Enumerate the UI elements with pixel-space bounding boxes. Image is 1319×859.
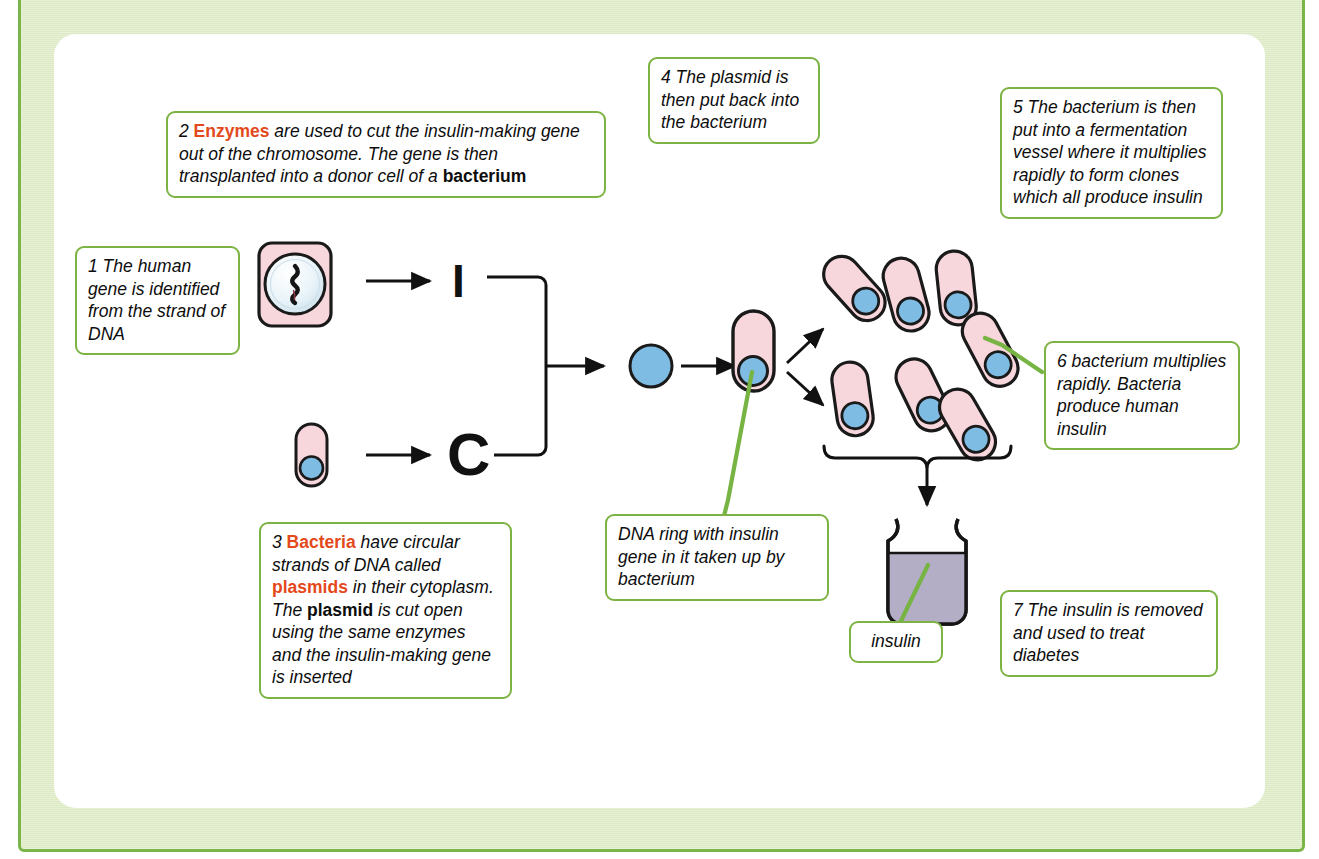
diagram-canvas: I C 1 The human gene is identified from … — [0, 0, 1319, 859]
merge-line-bottom — [494, 356, 546, 455]
recombinant-plasmid-graphic — [630, 345, 672, 387]
step-4-text: The plasmid is then put back into the ba… — [661, 67, 799, 132]
callout-step-1[interactable]: 1 The human gene is identified from the … — [75, 246, 240, 355]
step-2-number: 2 — [179, 121, 189, 141]
step-7-text: The insulin is removed and used to treat… — [1013, 600, 1203, 665]
step-1-number: 1 — [88, 256, 98, 276]
step-6-number: 6 — [1057, 351, 1067, 371]
callout-step-2[interactable]: 2 Enzymes are used to cut the insulin-ma… — [166, 111, 606, 198]
bacteria-clone-cluster — [816, 249, 1024, 467]
step-7-number: 7 — [1013, 600, 1023, 620]
human-cell-graphic — [259, 243, 331, 326]
step-2-keyword-bacterium: bacterium — [443, 166, 527, 186]
step-3-keyword-plasmid: plasmid — [307, 600, 373, 620]
step-6-text: bacterium multiplies rapidly. Bacteria p… — [1057, 351, 1226, 439]
transformed-bacterium-graphic — [733, 311, 774, 391]
step-2-keyword-enzymes: Enzymes — [194, 121, 270, 141]
leader-dna-ring — [724, 372, 752, 516]
callout-dna-ring[interactable]: DNA ring with insulin gene in it taken u… — [605, 514, 829, 601]
bacterium-small-graphic — [296, 424, 327, 486]
arrow-multiply-down — [787, 372, 823, 405]
callout-step-4[interactable]: 4 The plasmid is then put back into the … — [648, 57, 820, 144]
callout-step-3[interactable]: 3 Bacteria have circular strands of DNA … — [259, 522, 512, 699]
insulin-label-text: insulin — [871, 631, 921, 651]
callout-insulin[interactable]: insulin — [849, 621, 943, 663]
arrow-multiply-up — [787, 329, 823, 363]
callout-step-7[interactable]: 7 The insulin is removed and used to tre… — [1000, 590, 1218, 677]
callout-step-6[interactable]: 6 bacterium multiplies rapidly. Bacteria… — [1044, 341, 1240, 450]
insulin-gene-symbol: I — [452, 258, 465, 304]
step-4-number: 4 — [661, 67, 671, 87]
callout-step-5[interactable]: 5 The bacterium is then put into a ferme… — [1000, 87, 1223, 219]
step-5-text: The bacterium is then put into a ferment… — [1013, 97, 1207, 207]
step-3-keyword-bacteria: Bacteria — [287, 532, 356, 552]
step-5-number: 5 — [1013, 97, 1023, 117]
step-1-text: The human gene is identified from the st… — [88, 256, 225, 344]
step-3-keyword-plasmids: plasmids — [272, 577, 348, 597]
dna-ring-text: DNA ring with insulin gene in it taken u… — [618, 524, 784, 589]
step-3-number: 3 — [272, 532, 282, 552]
plasmid-symbol: C — [447, 425, 490, 485]
merge-line-top — [487, 277, 546, 356]
